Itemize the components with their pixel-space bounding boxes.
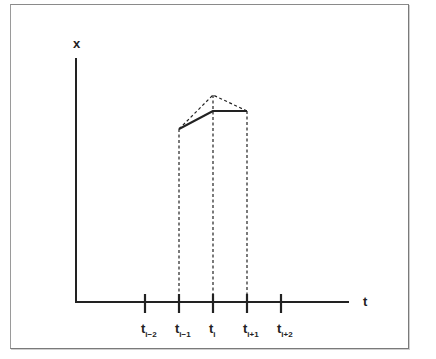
tick-label: ti+1 <box>243 321 259 339</box>
interpolation-diagram: ti−2ti−1titi+1ti+2 x t <box>0 0 436 359</box>
tick-label: ti−1 <box>175 321 191 339</box>
tick-label: ti <box>209 321 216 339</box>
tick-label-subscript: i+2 <box>281 330 293 339</box>
tick-label-subscript: i <box>213 330 215 339</box>
tick-label-subscript: i−2 <box>145 330 157 339</box>
ticks: ti−2ti−1titi+1ti+2 <box>141 294 293 339</box>
y-axis-label: x <box>73 36 81 51</box>
tick-label-subscript: i−1 <box>179 330 191 339</box>
tick-label-subscript: i+1 <box>247 330 259 339</box>
x-axis-label: t <box>363 294 368 309</box>
tick-label: ti−2 <box>141 321 157 339</box>
dotted-verticals <box>179 95 247 302</box>
tick-label: ti+2 <box>277 321 293 339</box>
